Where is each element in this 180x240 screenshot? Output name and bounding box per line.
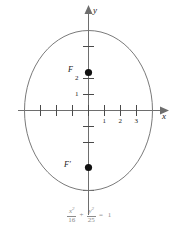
equation-x-denominator: 16: [67, 217, 76, 224]
y-axis-label: y: [93, 6, 97, 15]
equation-y-denominator: 25: [87, 217, 96, 224]
focus-label-f-prime: F′: [64, 161, 71, 169]
figure-canvas: [0, 0, 180, 240]
x-tick-label-2: 2: [119, 118, 123, 125]
equation-equals-operator: =: [98, 212, 105, 219]
equation-right-hand-side: 1: [106, 212, 113, 219]
y-tick-label-2: 2: [75, 75, 79, 82]
equation-plus-operator: +: [78, 212, 85, 219]
x-axis-label: x: [162, 112, 166, 121]
focus-point-f: [85, 69, 92, 76]
x-tick-label-1: 1: [103, 118, 107, 125]
focus-point-f-prime: [85, 164, 92, 171]
equation-caption: x2 16 + y2 25 = 1: [0, 206, 180, 224]
equation-term-y: y2 25: [87, 206, 96, 224]
equation-term-x: x2 16: [67, 206, 76, 224]
focus-label-f: F: [68, 66, 73, 74]
equation-y-exponent: 2: [92, 206, 95, 211]
x-tick-label-3: 3: [135, 118, 139, 125]
ellipse-figure: x y F F′ 1 2 3 2 1 x2 16 + y2 25 = 1: [0, 0, 180, 240]
equation-x-exponent: 2: [72, 206, 75, 211]
y-axis-arrowhead: [85, 5, 93, 14]
y-tick-label-1: 1: [75, 91, 79, 98]
